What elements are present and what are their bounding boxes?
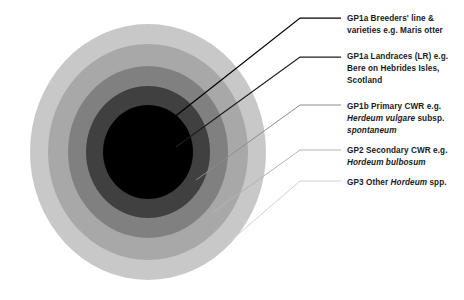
label-gp1b-primary-cwr: GP1b Primary CWR e.g.Herdeum vulgare sub… [347,101,444,138]
label-line: Herdeum vulgare subsp. [347,113,444,125]
species-name: Hordeum [391,178,428,187]
label-gp1a-breeders: GP1a Breeders' line &varieties e.g. Mari… [347,13,443,37]
label-text: spp. [427,178,447,187]
label-line: GP1b Primary CWR e.g. [347,101,444,113]
label-line: spontaneum [347,125,444,137]
label-line: GP3 Other Hordeum spp. [347,177,447,189]
label-text: GP1a Breeders' line & [347,14,434,23]
label-text: GP1b Primary CWR e.g. [347,102,441,111]
label-text: Scotland [347,76,382,85]
label-text: subsp. [415,114,444,123]
label-line: GP1a Landraces (LR) e.g. [347,51,448,63]
label-line: Bere on Hebrides Isles, [347,63,448,75]
species-name: Hordeum bulbosum [347,158,426,167]
label-line: Scotland [347,75,448,87]
species-name: spontaneum [347,126,397,135]
label-line: Hordeum bulbosum [347,157,448,169]
ring-0 [103,105,193,199]
label-line: GP2 Secondary CWR e.g. [347,145,448,157]
label-line: GP1a Breeders' line & [347,13,443,25]
label-text: varieties e.g. Maris otter [347,26,443,35]
label-line: varieties e.g. Maris otter [347,25,443,37]
label-text: GP1a Landraces (LR) e.g. [347,52,448,61]
label-gp1a-landraces: GP1a Landraces (LR) e.g.Bere on Hebrides… [347,51,448,88]
species-name: Herdeum vulgare [347,114,415,123]
label-gp3-other-hordeum: GP3 Other Hordeum spp. [347,177,447,189]
concentric-rings-group [30,24,266,280]
label-text: GP2 Secondary CWR e.g. [347,146,448,155]
label-gp2-secondary-cwr: GP2 Secondary CWR e.g.Hordeum bulbosum [347,145,448,169]
label-text: Bere on Hebrides Isles, [347,64,439,73]
label-text: GP3 Other [347,178,391,187]
gene-pool-diagram-page: GP1a Breeders' line &varieties e.g. Mari… [0,0,464,300]
